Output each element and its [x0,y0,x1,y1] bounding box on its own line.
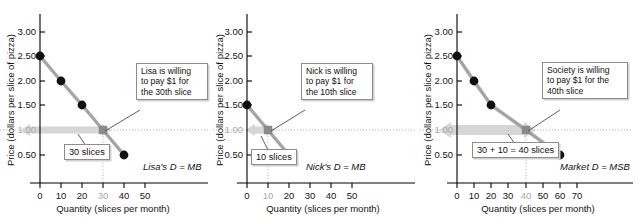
y-tick-label: 0.50 [225,149,244,160]
data-point [78,101,87,110]
y-tick-label: 3.00 [225,26,244,37]
tag-leader [261,136,268,150]
callout-leader [271,110,305,131]
y-axis-title: Price (dollars per slice of pizza) [214,34,225,166]
data-point [470,77,479,86]
y-tick-label: 2.50 [225,50,244,61]
x-tick-label: 30 [305,190,316,201]
x-axis-title: Quantity (slices per month) [266,203,380,214]
y-tick-label-highlight: 1.00 [435,124,454,135]
data-point [243,101,252,110]
data-point [487,101,496,110]
panel-market-plot: 3.00 2.50 2.00 1.50 1.00 0.50 0 10 20 30… [420,0,638,217]
callout-lisa: Lisa is willing to pay $1 for the 30th s… [136,63,208,100]
curve-label: Lisa's D = MB [143,161,202,172]
curve-label: Nick's D = MB [306,161,366,172]
data-point [120,151,129,160]
tag-nick-quantity: 10 slices [251,149,297,165]
y-tick-label: 0.50 [435,149,454,160]
panel-market: 3.00 2.50 2.00 1.50 1.00 0.50 0 10 20 30… [420,0,638,217]
y-axis-title: Price (dollars per slice of pizza) [422,34,433,166]
data-point [57,77,66,86]
y-tick-label-highlight: 1.00 [18,124,37,135]
y-tick-label: 2.50 [435,50,454,61]
y-tick-label: 3.00 [435,26,454,37]
data-point-highlight [264,126,272,134]
x-tick-label: 10 [469,190,480,201]
y-axis-title: Price (dollars per slice of pizza) [5,34,16,166]
callout-leader [105,110,140,131]
y-tick-label: 0.50 [18,149,37,160]
y-tick-label: 3.00 [18,26,37,37]
x-axis-title: Quantity (slices per month) [481,203,595,214]
tag-lisa-quantity: 30 slices [64,144,110,160]
x-tick-label-highlight: 40 [521,190,532,201]
x-tick-label: 30 [503,190,514,201]
y-tick-label: 2.00 [225,75,244,86]
x-tick-label: 20 [284,190,295,201]
x-tick-label: 50 [538,190,549,201]
x-tick-label: 40 [119,190,130,201]
y-tick-label: 2.50 [18,50,37,61]
x-tick-label: 60 [555,190,566,201]
x-tick-label: 10 [56,190,67,201]
quantity-span-arrow [439,122,536,138]
y-tick-label-highlight: 1.00 [225,124,244,135]
data-point [36,52,45,61]
callout-market: Society is willing to pay $1 for the 40t… [542,62,628,99]
y-tick-label: 1.50 [18,99,37,110]
curve-label: Market D = MSB [560,161,631,172]
x-tick-label: 0 [454,190,459,201]
callout-nick: Nick is willing to pay $1 for the 10th s… [301,63,373,100]
x-tick-label: 20 [486,190,497,201]
x-tick-label: 50 [347,190,358,201]
y-tick-label: 2.00 [435,75,454,86]
x-tick-label: 0 [244,190,249,201]
x-tick-label: 20 [77,190,88,201]
tag-market-quantity: 30 + 10 = 40 slices [472,142,559,158]
panel-nick-plot: 3.00 2.50 2.00 1.50 1.00 0.50 0 10 20 30… [213,0,420,217]
callout-leader [528,110,560,131]
data-point [453,52,462,61]
panel-lisa: 3.00 2.50 2.00 1.50 1.00 0.50 0 10 20 30… [0,0,213,217]
x-tick-label-highlight: 30 [98,190,109,201]
x-tick-label: 40 [326,190,337,201]
three-panel-demand-chart: 3.00 2.50 2.00 1.50 1.00 0.50 0 10 20 30… [0,0,638,217]
panel-lisa-plot: 3.00 2.50 2.00 1.50 1.00 0.50 0 10 20 30… [0,0,213,217]
x-tick-label-highlight: 10 [263,190,274,201]
panel-nick: 3.00 2.50 2.00 1.50 1.00 0.50 0 10 20 30… [213,0,420,217]
x-tick-label: 0 [37,190,42,201]
x-tick-label: 70 [572,190,583,201]
x-tick-label: 50 [140,190,151,201]
y-tick-label: 1.50 [435,99,454,110]
y-tick-label: 1.50 [225,99,244,110]
y-tick-label: 2.00 [18,75,37,86]
x-axis-title: Quantity (slices per month) [56,203,170,214]
